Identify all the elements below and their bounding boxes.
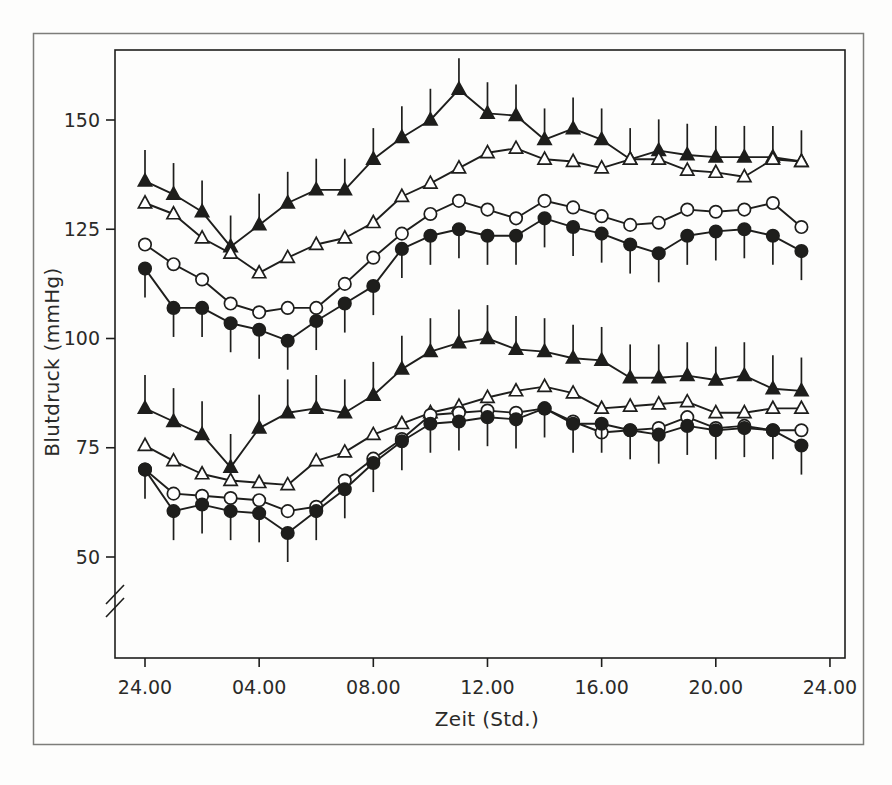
- filled-triangle-marker: [452, 82, 465, 94]
- filled-circle-marker: [795, 245, 807, 257]
- open-circle-marker: [167, 258, 179, 270]
- filled-triangle-marker: [253, 421, 266, 433]
- y-tick-label-50: 50: [76, 546, 100, 568]
- series-line: [145, 408, 801, 511]
- open-triangle-marker: [681, 395, 694, 407]
- filled-circle-marker: [510, 230, 522, 242]
- filled-triangle-marker: [567, 122, 580, 134]
- open-circle-marker: [795, 424, 807, 436]
- filled-circle-marker: [339, 483, 351, 495]
- open-circle-marker: [624, 219, 636, 231]
- open-circle-marker: [710, 206, 722, 218]
- open-triangle-marker: [138, 438, 151, 450]
- open-circle-marker: [681, 203, 693, 215]
- filled-circle-marker: [738, 422, 750, 434]
- filled-triangle-marker: [367, 152, 380, 164]
- filled-circle-marker: [595, 418, 607, 430]
- open-circle-marker: [310, 302, 322, 314]
- open-circle-marker: [282, 505, 294, 517]
- filled-circle-marker: [653, 428, 665, 440]
- open-triangle-marker: [338, 445, 351, 457]
- filled-circle-marker: [367, 457, 379, 469]
- filled-circle-marker: [367, 280, 379, 292]
- filled-circle-marker: [196, 302, 208, 314]
- x-axis-title: Zeit (Std.): [435, 707, 539, 731]
- open-circle-marker: [139, 238, 151, 250]
- filled-circle-marker: [224, 505, 236, 517]
- series-line: [145, 387, 801, 485]
- filled-triangle-marker: [681, 368, 694, 380]
- filled-circle-marker: [453, 415, 465, 427]
- filled-circle-marker: [481, 230, 493, 242]
- series-line: [145, 408, 801, 533]
- series-lower-filled-circle: [139, 402, 808, 562]
- open-circle-marker: [538, 195, 550, 207]
- filled-circle-marker: [224, 317, 236, 329]
- filled-triangle-marker: [481, 106, 494, 118]
- y-tick-label-100: 100: [64, 327, 100, 349]
- filled-circle-marker: [681, 420, 693, 432]
- open-circle-marker: [595, 210, 607, 222]
- filled-triangle-marker: [395, 130, 408, 142]
- series-upper-open-triangle: [138, 141, 808, 278]
- open-circle-marker: [453, 195, 465, 207]
- series-lower-open-triangle: [138, 379, 808, 489]
- filled-circle-marker: [282, 334, 294, 346]
- filled-circle-marker: [453, 223, 465, 235]
- open-circle-marker: [282, 302, 294, 314]
- filled-triangle-marker: [481, 331, 494, 343]
- open-triangle-marker: [138, 196, 151, 208]
- open-triangle-marker: [167, 454, 180, 466]
- open-circle-marker: [167, 487, 179, 499]
- x-tick-label-04.00: 04.00: [232, 676, 286, 698]
- x-tick-label-16.00: 16.00: [574, 676, 628, 698]
- filled-triangle-marker: [253, 218, 266, 230]
- open-circle-marker: [567, 201, 579, 213]
- filled-circle-marker: [253, 507, 265, 519]
- filled-triangle-marker: [138, 401, 151, 413]
- filled-circle-marker: [396, 243, 408, 255]
- series-line: [145, 201, 801, 312]
- series-upper-filled-circle: [139, 212, 808, 370]
- open-circle-marker: [653, 216, 665, 228]
- filled-circle-marker: [339, 297, 351, 309]
- open-circle-marker: [767, 197, 779, 209]
- filled-circle-marker: [282, 527, 294, 539]
- open-triangle-marker: [452, 161, 465, 173]
- open-circle-marker: [738, 203, 750, 215]
- x-tick-label-12.00: 12.00: [460, 676, 514, 698]
- x-tick-label-20.00: 20.00: [689, 676, 743, 698]
- filled-circle-marker: [510, 413, 522, 425]
- open-triangle-marker: [509, 141, 522, 153]
- open-triangle-marker: [338, 231, 351, 243]
- filled-circle-marker: [767, 230, 779, 242]
- open-circle-marker: [224, 492, 236, 504]
- x-tick-label-24.00: 24.00: [803, 676, 857, 698]
- open-circle-marker: [396, 227, 408, 239]
- open-triangle-marker: [195, 231, 208, 243]
- blood-pressure-figure: 150125100755024.0004.0008.0012.0016.0020…: [0, 0, 892, 785]
- figure-border: [34, 34, 864, 745]
- filled-triangle-marker: [310, 183, 323, 195]
- filled-circle-marker: [710, 225, 722, 237]
- open-circle-marker: [253, 494, 265, 506]
- filled-circle-marker: [653, 247, 665, 259]
- filled-circle-marker: [253, 324, 265, 336]
- filled-circle-marker: [310, 505, 322, 517]
- series-line: [145, 89, 801, 246]
- filled-triangle-marker: [195, 205, 208, 217]
- series-upper-filled-triangle: [138, 58, 808, 251]
- filled-circle-marker: [167, 302, 179, 314]
- filled-circle-marker: [481, 411, 493, 423]
- series-upper-open-circle: [139, 195, 808, 319]
- filled-circle-marker: [710, 424, 722, 436]
- filled-circle-marker: [538, 402, 550, 414]
- filled-circle-marker: [139, 463, 151, 475]
- filled-circle-marker: [624, 424, 636, 436]
- open-triangle-marker: [795, 401, 808, 413]
- open-circle-marker: [253, 306, 265, 318]
- filled-circle-marker: [424, 418, 436, 430]
- x-tick-label-08.00: 08.00: [346, 676, 400, 698]
- filled-circle-marker: [595, 227, 607, 239]
- filled-triangle-marker: [138, 174, 151, 186]
